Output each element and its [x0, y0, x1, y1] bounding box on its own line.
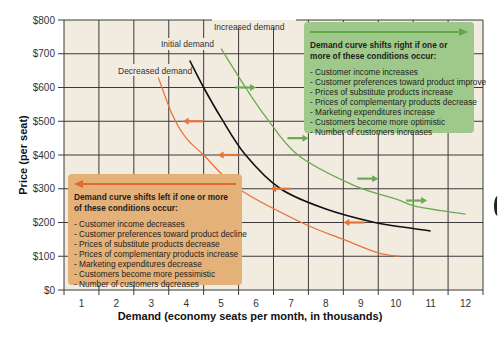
x-tick-label: 11 [425, 298, 436, 309]
right-shift-arrow [310, 29, 468, 35]
x-tick-label: 6 [253, 298, 259, 309]
condition-item: - Customers become more optimistic [310, 117, 468, 127]
left-shift-arrow [74, 181, 236, 187]
condition-item: - Marketing expenditures decrease [74, 259, 236, 269]
condition-item: - Prices of substitute products increase [310, 87, 468, 97]
condition-item: - Prices of complementary products decre… [310, 97, 468, 107]
condition-item: - Customer preferences toward product de… [74, 229, 236, 239]
y-axis-title: Price (per seat) [17, 115, 29, 195]
y-axis-ticks: $0$100$200$300$400$500$600$700$800 [33, 15, 64, 296]
y-tick-label: $100 [33, 251, 56, 262]
x-tick-label: 12 [460, 298, 472, 309]
arrow-right-icon [459, 28, 468, 36]
right-shift-conditions-list: - Customer income increases - Customer p… [310, 67, 468, 137]
increased-label-bg [212, 8, 296, 20]
y-tick-label: $300 [33, 183, 56, 194]
y-tick-label: $500 [33, 116, 56, 127]
condition-item: - Prices of substitute products decrease [74, 239, 236, 249]
left-shift-title: Demand curve shifts left if one or more … [74, 192, 236, 213]
left-shift-conditions-box: Demand curve shifts left if one or more … [68, 174, 242, 285]
x-tick-label: 7 [288, 298, 294, 309]
decreased-demand-label: Decreased demand [118, 66, 192, 76]
condition-item: - Number of customers increases [310, 127, 468, 137]
x-tick-label: 2 [114, 298, 120, 309]
y-tick-label: $700 [33, 48, 56, 59]
x-tick-label: 10 [390, 298, 402, 309]
x-tick-label: 1 [79, 298, 85, 309]
left-shift-conditions-list: - Customer income decreases - Customer p… [74, 219, 236, 289]
condition-item: - Customers become more pessimistic [74, 269, 236, 279]
condition-item: - Marketing expenditures increase [310, 107, 468, 117]
right-shift-title: Demand curve shifts right if one or more… [310, 40, 468, 61]
x-tick-label: 8 [323, 298, 329, 309]
y-tick-label: $0 [44, 285, 56, 296]
x-axis-ticks: 123456789101112 [79, 298, 472, 309]
x-axis-title: Demand (economy seats per month, in thou… [118, 310, 383, 322]
condition-item: - Customer preferences toward product im… [310, 77, 468, 87]
page-edge-mark [494, 196, 501, 216]
x-tick-label: 5 [218, 298, 224, 309]
increased-demand-label: Increased demand [214, 22, 285, 32]
condition-item: - Number of customers decreases [74, 279, 236, 289]
y-tick-label: $600 [33, 82, 56, 93]
x-tick-label: 3 [149, 298, 155, 309]
arrow-shaft [310, 31, 460, 33]
condition-item: - Customer income increases [310, 67, 468, 77]
right-shift-conditions-box: Demand curve shifts right if one or more… [304, 22, 474, 133]
arrow-shaft [82, 183, 236, 185]
y-tick-label: $400 [33, 150, 56, 161]
y-tick-label: $800 [33, 15, 56, 26]
condition-item: - Prices of complementary products incre… [74, 249, 236, 259]
condition-item: - Customer income decreases [74, 219, 236, 229]
initial-demand-label: Initial demand [161, 39, 214, 49]
x-tick-label: 4 [183, 298, 189, 309]
x-tick-label: 9 [358, 298, 364, 309]
y-tick-label: $200 [33, 217, 56, 228]
